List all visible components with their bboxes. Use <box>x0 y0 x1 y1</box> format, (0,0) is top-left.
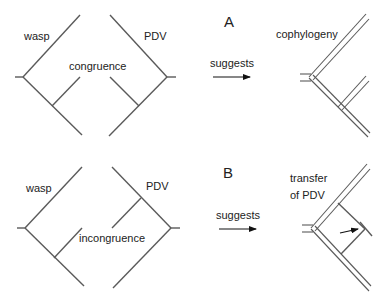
wasp-label-a: wasp <box>23 30 50 42</box>
panel-a: wasp PDV congruence A suggests cophyloge… <box>15 13 370 137</box>
transfer-label-line1: transfer <box>290 172 328 184</box>
suggests-label-b: suggests <box>216 209 261 221</box>
suggests-label-a: suggests <box>210 57 255 69</box>
congruence-label: congruence <box>69 60 127 72</box>
wasp-label-b: wasp <box>25 182 52 194</box>
pdv-label-a: PDV <box>144 30 167 42</box>
cophylogeny-label: cophylogeny <box>276 28 338 40</box>
panel-letter-b: B <box>223 164 233 181</box>
panel-letter-a: A <box>224 13 234 30</box>
panel-b: wasp PDV incongruence B suggests transfe… <box>17 164 372 291</box>
incongruence-label: incongruence <box>79 232 145 244</box>
pdv-label-b: PDV <box>146 180 169 192</box>
transfer-arrow-icon <box>340 229 358 233</box>
transfer-label-line2: of PDV <box>290 189 326 201</box>
diagram-canvas: wasp PDV congruence A suggests cophyloge… <box>0 0 384 305</box>
